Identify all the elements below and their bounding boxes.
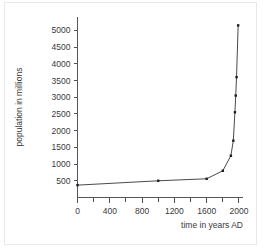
y-tick-label: 2000 [52,126,71,136]
y-tick-label: 500 [56,176,70,186]
y-tick-label: 3000 [52,92,71,102]
data-point [235,94,237,96]
data-point [234,111,236,113]
x-tick-label: 0 [75,206,80,216]
x-tick-label: 1600 [197,206,216,216]
population-data-points [76,24,239,186]
data-point [222,170,224,172]
x-axis-title: time in years AD [181,220,243,230]
data-series [76,24,239,186]
x-tick-label: 1200 [165,206,184,216]
data-point [235,76,237,78]
y-axis-tick-labels: 500100015002000250030003500400045005000 [52,25,71,185]
y-tick-label: 2500 [52,109,71,119]
data-point [205,178,207,180]
x-axis-tick-labels: 0400800120016002000 [75,206,249,216]
data-point [76,184,78,186]
y-tick-label: 4000 [52,59,71,69]
data-point [157,180,159,182]
x-tick-label: 400 [103,206,117,216]
x-tick-label: 800 [135,206,149,216]
chart-page: 500100015002000250030003500400045005000 … [0,0,263,252]
y-tick-label: 1500 [52,142,71,152]
data-point [232,139,234,141]
y-tick-label: 5000 [52,25,71,35]
y-axis-title: population in millions [14,68,24,147]
y-tick-label: 1000 [52,159,71,169]
data-point [237,24,239,26]
y-axis-ticks [74,30,78,180]
data-point [230,155,232,157]
population-growth-chart: 500100015002000250030003500400045005000 … [0,0,263,252]
axes [78,17,244,198]
x-axis-ticks [78,198,239,203]
y-tick-label: 3500 [52,76,71,86]
x-tick-label: 2000 [230,206,249,216]
y-tick-label: 4500 [52,42,71,52]
population-curve [78,25,239,185]
